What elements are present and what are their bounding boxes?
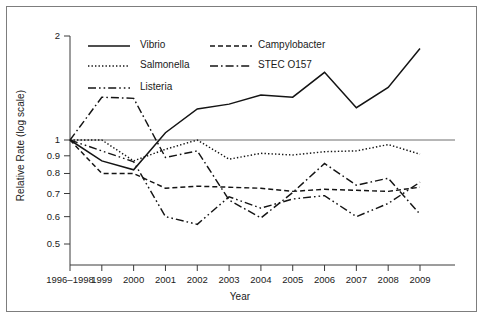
x-tick-label: 2009 [385, 274, 455, 285]
chart-figure: Relative Rate (log scale) Year 210.90.80… [0, 0, 483, 318]
y-axis-title: Relative Rate (log scale) [15, 66, 26, 226]
series-line-campylobacter [70, 140, 420, 191]
y-tick-label: 0.7 [20, 188, 60, 199]
legend-label-salmonella: Salmonella [140, 59, 189, 70]
y-tick-label: 2 [20, 30, 60, 41]
y-tick-label: 0.5 [20, 238, 60, 249]
series-line-listeria [70, 140, 420, 224]
x-tick-marks [70, 265, 420, 271]
y-tick-marks [64, 36, 70, 244]
legend-label-stec-o157: STEC O157 [258, 59, 312, 70]
series-line-stec-o157 [70, 97, 420, 218]
series-line-salmonella [70, 140, 420, 161]
plot-canvas [0, 0, 483, 318]
y-tick-label: 1 [20, 134, 60, 145]
x-axis-title: Year [150, 291, 330, 302]
series-lines [70, 49, 420, 225]
legend-label-listeria: Listeria [140, 81, 172, 92]
y-tick-label: 0.9 [20, 150, 60, 161]
y-tick-label: 0.6 [20, 211, 60, 222]
legend-label-campylobacter: Campylobacter [258, 39, 325, 50]
y-tick-label: 0.8 [20, 167, 60, 178]
legend-label-vibrio: Vibrio [140, 39, 165, 50]
